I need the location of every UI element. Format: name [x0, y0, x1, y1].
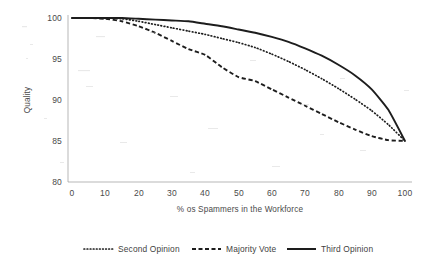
x-tick-label: 60 — [267, 188, 277, 198]
y-tick-label: 95 — [52, 54, 62, 64]
line-chart: 100 95 90 85 80 Quality 0 10 20 30 40 50… — [0, 0, 436, 269]
chart-legend: Second Opinion Majority Vote Third Opini… — [84, 244, 373, 254]
legend-item-third-opinion[interactable]: Third Opinion — [287, 244, 373, 254]
series-line-third-opinion — [72, 18, 405, 141]
x-tick-label: 70 — [300, 188, 310, 198]
series-line-second-opinion — [72, 18, 405, 141]
x-tick-label: 50 — [234, 188, 244, 198]
legend-label: Second Opinion — [118, 244, 180, 254]
x-tick-label: 90 — [367, 188, 377, 198]
chart-series-group — [72, 18, 405, 141]
x-axis-title: % os Spammers in the Workforce — [177, 205, 304, 214]
x-tick-label: 40 — [200, 188, 210, 198]
y-tick-label: 90 — [52, 95, 62, 105]
x-tick-label: 30 — [167, 188, 177, 198]
chart-axes — [68, 15, 412, 182]
legend-label: Majority Vote — [226, 244, 277, 254]
series-line-majority-vote — [72, 18, 405, 141]
x-tick-label: 100 — [398, 188, 413, 198]
y-axis-title: Quality — [23, 86, 32, 113]
x-axis-tick-labels: 0 10 20 30 40 50 60 70 80 90 100 — [70, 188, 413, 198]
legend-item-majority-vote[interactable]: Majority Vote — [192, 244, 277, 254]
y-tick-label: 100 — [47, 13, 62, 23]
y-tick-label: 80 — [52, 177, 62, 187]
legend-item-second-opinion[interactable]: Second Opinion — [84, 244, 180, 254]
x-tick-label: 20 — [134, 188, 144, 198]
y-tick-label: 85 — [52, 136, 62, 146]
x-tick-label: 10 — [100, 188, 110, 198]
legend-label: Third Opinion — [321, 244, 373, 254]
chart-container: 100 95 90 85 80 Quality 0 10 20 30 40 50… — [0, 0, 436, 269]
y-axis-tick-labels: 100 95 90 85 80 — [47, 13, 62, 187]
x-tick-label: 80 — [334, 188, 344, 198]
x-tick-label: 0 — [70, 188, 75, 198]
